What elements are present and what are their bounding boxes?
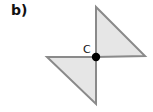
lower-left-triangle bbox=[47, 57, 96, 104]
center-point-label: C bbox=[83, 43, 91, 56]
upper-right-triangle bbox=[96, 7, 145, 57]
rotation-figure: C bbox=[0, 0, 153, 112]
center-point-dot bbox=[92, 53, 100, 61]
